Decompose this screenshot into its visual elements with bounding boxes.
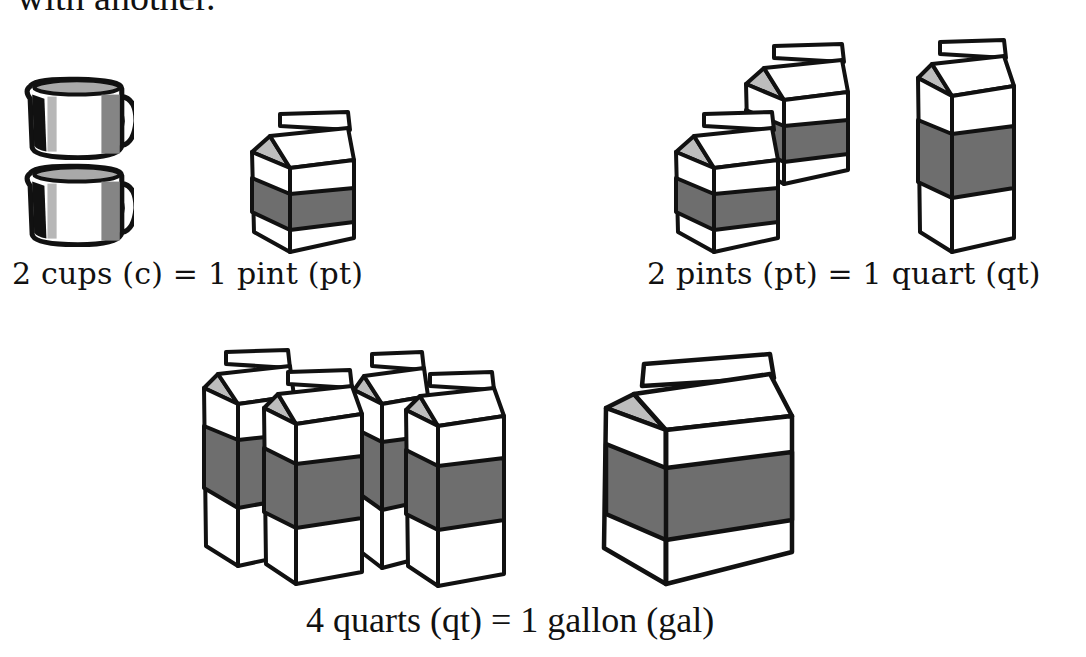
- quart-carton-icon: [916, 38, 1018, 256]
- conversion-caption: 4 quarts (qt) = 1 gallon (gal): [306, 600, 714, 640]
- pint-carton-icon: [250, 110, 358, 255]
- conversion-caption: 2 cups (c) = 1 pint (pt): [12, 256, 363, 292]
- gallon-carton-icon: [602, 352, 796, 588]
- measuring-cup-icon: [22, 76, 134, 160]
- quart-carton-icon: [262, 368, 366, 588]
- pint-carton-icon: [674, 110, 782, 255]
- quart-carton-icon: [404, 370, 508, 590]
- intro-text: with another.: [17, 0, 215, 16]
- measuring-cup-icon: [22, 163, 134, 247]
- conversion-caption: 2 pints (pt) = 1 quart (qt): [647, 256, 1041, 292]
